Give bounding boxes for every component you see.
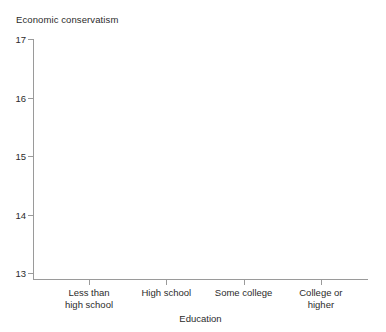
y-tick-label: 17 [0,34,26,45]
x-tick-label-line: Less than [65,287,113,299]
x-tick-label: Less thanhigh school [65,287,113,310]
x-tick-label-line: Some college [215,287,273,299]
y-tick-label: 13 [0,268,26,279]
y-axis-line [33,39,34,280]
y-tick-mark [28,98,33,99]
y-tick-label: 15 [0,151,26,162]
x-axis-line [33,279,368,280]
x-tick-label: Some college [215,287,273,299]
y-tick-mark [28,273,33,274]
x-tick-label-line: higher [299,299,342,311]
plot-area [34,39,368,279]
y-tick-mark [28,156,33,157]
x-tick-label-line: high school [65,299,113,311]
x-tick-label-line: High school [141,287,191,299]
x-tick-label: High school [141,287,191,299]
y-axis-title: Economic conservatism [16,14,118,25]
x-axis-title: Education [33,313,368,324]
y-tick-mark [28,39,33,40]
chart-figure: Economic conservatism 1716151413 Less th… [0,0,386,332]
x-tick-label-line: College or [299,287,342,299]
y-tick-label: 16 [0,92,26,103]
y-tick-label: 14 [0,209,26,220]
x-tick-mark [166,280,167,285]
x-tick-mark [244,280,245,285]
x-tick-mark [321,280,322,285]
x-tick-label: College orhigher [299,287,342,310]
y-tick-mark [28,215,33,216]
x-tick-mark [89,280,90,285]
